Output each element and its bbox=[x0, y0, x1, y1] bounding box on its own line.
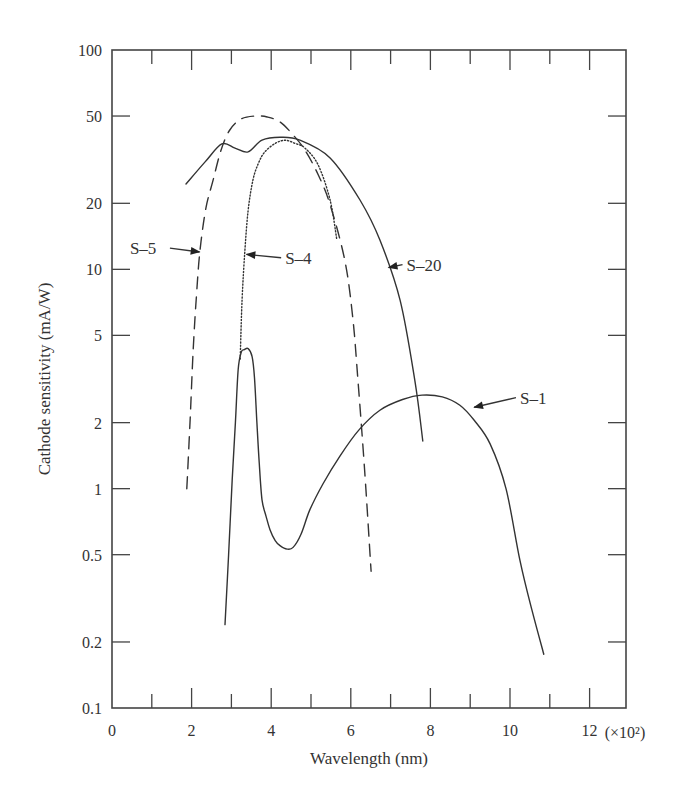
curve-s-1 bbox=[225, 348, 544, 654]
series-layer bbox=[186, 116, 544, 654]
pointer-arrow-icon bbox=[170, 248, 200, 252]
y-tick-label: 10 bbox=[86, 261, 102, 278]
x-tick-label: 12 bbox=[582, 722, 598, 739]
pointer-arrow-icon bbox=[474, 398, 516, 408]
y-axis-ticks: 0.10.20.5125102050100 bbox=[78, 42, 626, 717]
y-tick-label: 5 bbox=[94, 327, 102, 344]
y-tick-label: 20 bbox=[86, 195, 102, 212]
y-axis-title: Cathode sensitivity (mA/W) bbox=[35, 283, 54, 476]
curve-s-20 bbox=[186, 137, 423, 441]
pointer-arrow-icon bbox=[389, 265, 403, 268]
sensitivity-chart: 024681012 0.10.20.5125102050100 S–20S–5S… bbox=[0, 0, 686, 804]
plot-frame bbox=[112, 50, 626, 708]
x-tick-label: 0 bbox=[108, 722, 116, 739]
y-tick-label: 0.2 bbox=[82, 634, 102, 651]
curve-s-5 bbox=[187, 116, 371, 571]
x-axis-title: Wavelength (nm) bbox=[310, 749, 428, 768]
y-tick-label: 100 bbox=[78, 42, 102, 59]
y-tick-label: 0.1 bbox=[82, 700, 102, 717]
y-tick-label: 1 bbox=[94, 481, 102, 498]
x-tick-label: 6 bbox=[347, 722, 355, 739]
y-tick-label: 2 bbox=[94, 415, 102, 432]
x-tick-label: 8 bbox=[426, 722, 434, 739]
y-tick-label: 50 bbox=[86, 108, 102, 125]
pointer-arrow-icon bbox=[247, 254, 282, 257]
x-axis-multiplier: (×10²) bbox=[605, 724, 645, 742]
series-label-s-5: S–5 bbox=[130, 239, 156, 258]
x-tick-label: 4 bbox=[267, 722, 275, 739]
x-tick-label: 2 bbox=[188, 722, 196, 739]
y-tick-label: 0.5 bbox=[82, 547, 102, 564]
series-label-s-4: S–4 bbox=[285, 249, 312, 268]
x-tick-label: 10 bbox=[502, 722, 518, 739]
series-label-s-1: S–1 bbox=[520, 389, 546, 408]
series-label-s-20: S–20 bbox=[407, 256, 442, 275]
